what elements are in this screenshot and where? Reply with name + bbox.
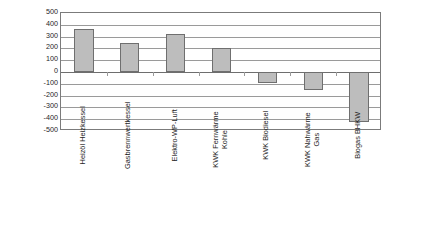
x-axis-tick [153, 72, 154, 76]
x-axis-tick [244, 72, 245, 76]
category-label-text: Biogas BHKW [354, 112, 363, 159]
y-tick-label: 0 [30, 67, 58, 74]
x-axis-tick [107, 72, 108, 76]
y-tick-label: -300 [30, 103, 58, 110]
y-tick-label: 100 [30, 56, 58, 63]
x-axis-tick [199, 72, 200, 76]
bar [304, 72, 323, 90]
y-tick-label: 300 [30, 32, 58, 39]
y-tick-label: 400 [30, 20, 58, 27]
x-axis-tick [290, 72, 291, 76]
y-tick-label: -100 [30, 79, 58, 86]
y-tick-label: -200 [30, 91, 58, 98]
y-axis-tick-labels: 5004003002001000-100-200-300-400-500 [30, 12, 58, 130]
x-axis-category-labels: Heizöl HeizkesselGasbrennwertkesselElekt… [60, 131, 381, 235]
y-tick-label: 200 [30, 44, 58, 51]
y-tick-label: -400 [30, 115, 58, 122]
bar [74, 29, 93, 72]
bar [166, 34, 185, 72]
y-tick-label: 500 [30, 8, 58, 15]
bar [258, 72, 277, 83]
x-axis-tick [336, 72, 337, 76]
bar [120, 43, 139, 72]
category-label: Biogas BHKW [308, 131, 408, 231]
bar [212, 48, 231, 72]
co2-equivalent-bar-chart: CO2-Äquivalent in g / kWh 50040030020010… [0, 0, 441, 238]
